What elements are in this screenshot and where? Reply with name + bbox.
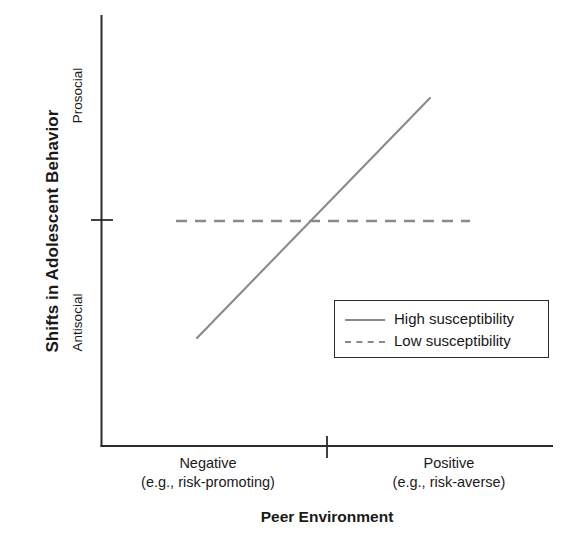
legend-item-high-susceptibility: High susceptibility xyxy=(335,307,548,330)
x-axis-tick-label-positive-main: Positive xyxy=(330,454,568,473)
y-axis-title: Shifts in Adolescent Behavior xyxy=(43,21,63,441)
legend-label-high-susceptibility: High susceptibility xyxy=(394,310,514,327)
legend-item-low-susceptibility: Low susceptibility xyxy=(335,329,548,352)
x-axis-tick-label-negative: Negative (e.g., risk-promoting) xyxy=(88,454,328,492)
x-axis-tick-label-negative-sub: (e.g., risk-promoting) xyxy=(88,473,328,492)
legend-line-solid-icon xyxy=(345,313,385,325)
legend-label-low-susceptibility: Low susceptibility xyxy=(394,332,511,349)
x-axis-tick-label-positive: Positive (e.g., risk-averse) xyxy=(330,454,568,492)
x-axis-tick-label-positive-sub: (e.g., risk-averse) xyxy=(330,473,568,492)
chart-figure: Shifts in Adolescent Behavior Prosocial … xyxy=(0,0,572,548)
x-axis-title: Peer Environment xyxy=(101,508,553,526)
y-axis-tick-label-prosocial: Prosocial xyxy=(70,31,85,161)
y-axis-tick-label-antisocial: Antisocial xyxy=(70,258,85,388)
x-axis-tick-label-negative-main: Negative xyxy=(88,454,328,473)
legend-line-dashed-icon xyxy=(345,335,385,347)
chart-legend: High susceptibility Low susceptibility xyxy=(334,300,549,358)
